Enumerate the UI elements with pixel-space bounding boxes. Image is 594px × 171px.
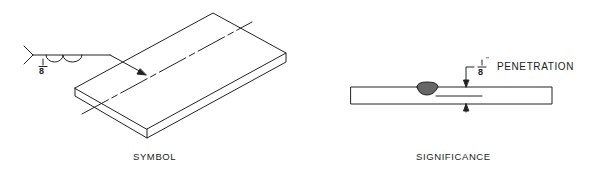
- penetration-denominator: 8: [478, 67, 484, 77]
- isometric-plate: [75, 13, 286, 138]
- penetration-label: PENETRATION: [497, 61, 574, 72]
- cross-section-bar: [351, 87, 552, 104]
- inch-mark: ": [486, 55, 489, 64]
- caption-significance: SIGNIFICANCE: [416, 151, 491, 162]
- caption-symbol: SYMBOL: [133, 151, 176, 162]
- symbol-size-denominator: 8: [39, 66, 45, 76]
- weld-diagram-canvas: [0, 0, 594, 171]
